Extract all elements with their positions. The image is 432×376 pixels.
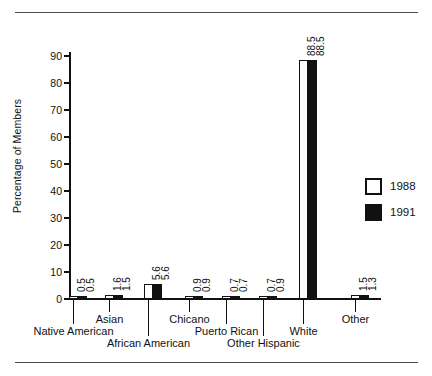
bar-chicano-1991 — [194, 296, 203, 299]
bar-value-label: 0.7 — [239, 278, 249, 292]
category-leader-line — [148, 300, 150, 336]
y-axis-tick — [64, 244, 69, 246]
bar-white-1991 — [308, 60, 317, 299]
open-square-swatch-icon — [365, 178, 382, 195]
bar-value-label: 1.5 — [122, 277, 132, 291]
chart-figure: Percentage of Members 010203040506070809… — [0, 0, 432, 376]
y-axis-tick — [64, 82, 69, 84]
bar-african-american-1991 — [153, 284, 162, 299]
x-axis-category-label: Chicano — [169, 314, 209, 325]
bar-other-1988 — [351, 295, 360, 299]
x-axis-category-label: African American — [107, 338, 190, 349]
x-axis-category-label: Other Hispanic — [227, 338, 300, 349]
y-axis-tick-label: 10 — [36, 267, 62, 278]
y-axis-tick-label: 20 — [36, 240, 62, 251]
bar-asian-1991 — [114, 295, 123, 299]
bar-asian-1988 — [105, 295, 114, 299]
y-axis-tick-label: 0 — [36, 294, 62, 305]
category-leader-line — [355, 300, 357, 312]
category-leader-line — [73, 300, 75, 324]
bar-chicano-1988 — [185, 296, 194, 299]
bar-puerto-rican-1991 — [231, 296, 240, 299]
category-leader-line — [189, 300, 191, 312]
x-axis-category-label: Asian — [96, 314, 124, 325]
x-axis-category-label: Native American — [33, 326, 113, 337]
y-axis-tick — [64, 190, 69, 192]
bar-value-label: 0.5 — [86, 278, 96, 292]
bar-value-label: 5.6 — [161, 266, 171, 280]
category-leader-line — [109, 300, 111, 312]
y-axis-tick-label: 50 — [36, 159, 62, 170]
y-axis-tick-label: 80 — [36, 78, 62, 89]
bar-value-label: 88.5 — [316, 37, 326, 56]
bar-puerto-rican-1988 — [222, 296, 231, 299]
y-axis-tick — [64, 217, 69, 219]
y-axis-title: Percentage of Members — [11, 81, 23, 231]
filled-square-swatch-icon — [365, 204, 382, 221]
bar-value-label: 1.3 — [368, 278, 378, 292]
y-axis-tick-label: 90 — [36, 51, 62, 62]
bar-white-1988 — [299, 60, 308, 299]
x-axis-category-label: Puerto Rican — [195, 326, 259, 337]
y-axis-tick-label: 30 — [36, 213, 62, 224]
category-leader-line — [263, 300, 265, 336]
bar-value-label: 0.9 — [202, 278, 212, 292]
bar-other-hispanic-1991 — [268, 296, 277, 299]
y-axis-line — [69, 52, 71, 300]
bar-native-american-1988 — [69, 296, 78, 299]
bar-value-label: 0.9 — [276, 278, 286, 292]
y-axis-tick — [64, 136, 69, 138]
bar-african-american-1988 — [144, 284, 153, 299]
y-axis-tick — [64, 109, 69, 111]
category-leader-line — [226, 300, 228, 324]
y-axis-tick-label: 60 — [36, 132, 62, 143]
y-axis-tick — [64, 55, 69, 57]
bar-native-american-1991 — [78, 296, 87, 299]
y-axis-tick — [64, 163, 69, 165]
x-axis-category-label: Other — [342, 314, 370, 325]
bottom-divider-rule — [15, 362, 418, 363]
category-leader-line — [303, 300, 305, 324]
y-axis-tick — [64, 271, 69, 273]
bar-other-1991 — [360, 295, 369, 299]
legend-label-1988: 1988 — [390, 181, 416, 193]
bar-other-hispanic-1988 — [259, 296, 268, 299]
x-axis-category-label: White — [289, 326, 317, 337]
top-divider-rule — [15, 12, 418, 13]
legend-label-1991: 1991 — [390, 207, 416, 219]
y-axis-tick-label: 40 — [36, 186, 62, 197]
y-axis-tick-label: 70 — [36, 105, 62, 116]
